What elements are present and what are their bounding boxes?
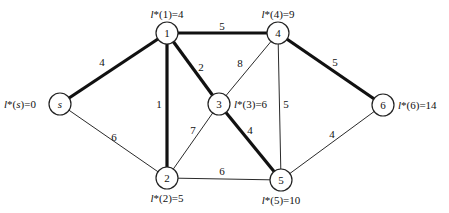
node-label: s: [58, 98, 62, 110]
edge-4-5: [278, 33, 281, 180]
distance-label-6: l*(6)=14: [398, 99, 437, 112]
node-label: 2: [164, 172, 170, 184]
distance-label-1: l*(1)=4: [150, 8, 184, 21]
edge-3-5: [219, 104, 281, 180]
edge-weight-1-2: 1: [156, 98, 162, 110]
edge-weight-2-5: 6: [219, 165, 225, 177]
node-s: s: [49, 93, 71, 115]
edge-2-5: [167, 178, 281, 180]
node-3: 3: [208, 93, 230, 115]
edge-2-3: [167, 104, 219, 178]
edge-weight-4-5: 5: [283, 98, 289, 110]
distance-label-4: l*(4)=9: [261, 8, 295, 21]
node-1: 1: [156, 22, 178, 44]
node-6: 6: [372, 94, 394, 116]
edge-weight-1-3: 2: [198, 61, 204, 73]
edge-weight-3-5: 4: [247, 124, 253, 136]
distance-label-3: l*(3)=6: [234, 98, 268, 111]
edge-5-6: [281, 105, 383, 180]
node-5: 5: [270, 169, 292, 191]
distance-label-2: l*(2)=5: [150, 192, 184, 205]
edge-4-6: [278, 33, 383, 105]
edge-weight-s-1: 4: [99, 56, 105, 68]
edge-weight-4-6: 5: [332, 56, 338, 68]
edge-weight-1-4: 5: [219, 20, 225, 32]
distance-label-s: l*(s)=0: [4, 98, 36, 111]
node-label: 4: [275, 27, 281, 39]
node-label: 3: [216, 98, 222, 110]
edge-s-1: [60, 33, 167, 104]
distance-label-5: l*(5)=10: [262, 194, 301, 207]
node-label: 6: [380, 99, 386, 111]
node-label: 5: [278, 174, 284, 186]
node-4: 4: [267, 22, 289, 44]
edge-weight-3-4: 8: [237, 57, 243, 69]
node-2: 2: [156, 167, 178, 189]
node-label: 1: [164, 27, 170, 39]
edge-weight-5-6: 4: [329, 128, 335, 140]
shortest-path-graph: 461258745654 s123456 l*(s)=0l*(1)=4l*(2)…: [0, 0, 449, 213]
edge-1-3: [167, 33, 219, 104]
edge-weight-s-2: 6: [111, 131, 117, 143]
edge-3-4: [219, 33, 278, 104]
edge-weight-2-3: 7: [190, 124, 196, 136]
